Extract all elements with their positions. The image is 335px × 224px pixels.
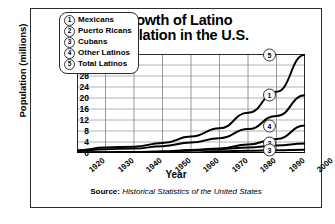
legend-marker-1-icon: 1 (64, 15, 75, 26)
y-axis-tick: 4 (67, 137, 89, 147)
legend-item: 1 Mexicans (64, 15, 132, 26)
legend-label-other-latinos: Other Latinos (78, 48, 130, 59)
series-end-label-total-latinos: 5 (263, 48, 276, 61)
legend-item: 5 Total Latinos (64, 59, 132, 70)
source-label: Source: (90, 187, 120, 196)
legend-item: 4 Other Latinos (64, 48, 132, 59)
legend-label-cubans: Cubans (78, 37, 107, 48)
legend-marker-4-icon: 4 (64, 48, 75, 59)
legend-marker-5-icon: 5 (64, 59, 75, 70)
legend-item: 2 Puerto Ricans (64, 26, 132, 37)
y-axis-label: Population (millions) (17, 16, 28, 126)
source-note: Source: Historical Statistics of the Uni… (31, 187, 321, 196)
series-end-label-mexicans: 1 (263, 89, 276, 102)
legend-label-puerto-ricans: Puerto Ricans (78, 26, 132, 37)
series-end-label-cubans: 3 (263, 143, 276, 156)
x-axis-label: Year (31, 169, 321, 180)
y-axis-tick: 24 (67, 82, 89, 92)
legend-marker-2-icon: 2 (64, 26, 75, 37)
chart-figure: Growth of Latino Population in the U.S. … (30, 8, 322, 208)
y-axis-tick: 20 (67, 93, 89, 103)
y-axis-tick: 0 (67, 148, 89, 158)
legend-label-total-latinos: Total Latinos (78, 59, 127, 70)
legend-label-mexicans: Mexicans (78, 15, 114, 26)
source-title: Historical Statistics of the United Stat… (122, 187, 262, 196)
y-axis-tick: 16 (67, 104, 89, 114)
series-end-label-other-latinos: 4 (263, 119, 276, 132)
chart-legend: 1 Mexicans 2 Puerto Ricans 3 Cubans 4 Ot… (59, 12, 139, 74)
y-axis-tick: 8 (67, 126, 89, 136)
legend-item: 3 Cubans (64, 37, 132, 48)
y-axis-tick: 12 (67, 115, 89, 125)
legend-marker-3-icon: 3 (64, 37, 75, 48)
